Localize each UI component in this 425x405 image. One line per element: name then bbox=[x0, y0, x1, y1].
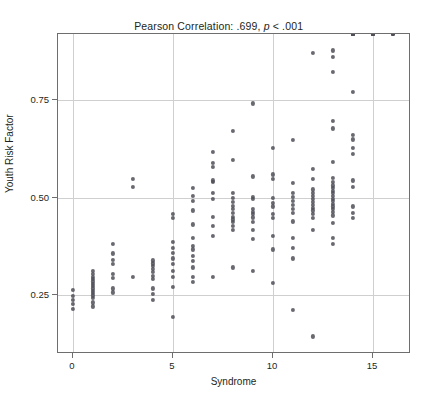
data-point bbox=[251, 228, 255, 232]
data-point bbox=[351, 146, 355, 150]
data-point bbox=[251, 237, 255, 241]
data-point bbox=[191, 254, 195, 258]
data-point bbox=[111, 276, 115, 280]
data-point bbox=[271, 247, 275, 251]
data-point bbox=[131, 185, 135, 189]
data-point bbox=[291, 246, 295, 250]
data-point bbox=[271, 281, 275, 285]
gridline-horizontal bbox=[58, 295, 409, 296]
data-point bbox=[171, 256, 175, 260]
data-point bbox=[231, 158, 235, 162]
chart-title-prefix: Pearson Correlation: .699, bbox=[134, 20, 264, 32]
data-point bbox=[211, 215, 215, 219]
data-point bbox=[331, 221, 335, 225]
data-point bbox=[271, 172, 275, 176]
data-point bbox=[211, 191, 215, 195]
data-point bbox=[231, 228, 235, 232]
data-point bbox=[251, 269, 255, 273]
data-point bbox=[211, 197, 215, 201]
data-point bbox=[91, 304, 95, 308]
data-point bbox=[351, 204, 355, 208]
data-point bbox=[311, 177, 315, 181]
data-point bbox=[171, 275, 175, 279]
data-point bbox=[351, 133, 355, 137]
data-point bbox=[71, 288, 75, 292]
data-point bbox=[351, 178, 355, 182]
data-point bbox=[191, 280, 195, 284]
data-point bbox=[271, 204, 275, 208]
data-point bbox=[391, 33, 395, 36]
data-point bbox=[351, 137, 355, 141]
data-point bbox=[131, 275, 135, 279]
data-point bbox=[111, 262, 115, 266]
data-point bbox=[271, 216, 275, 220]
data-point bbox=[211, 150, 215, 154]
y-tick-label: 0.25 bbox=[3, 289, 49, 300]
data-point bbox=[271, 177, 275, 181]
data-point bbox=[291, 256, 295, 260]
x-tick-label: 10 bbox=[257, 360, 287, 371]
data-point bbox=[331, 48, 335, 52]
data-point bbox=[271, 234, 275, 238]
data-point bbox=[111, 290, 115, 294]
data-point bbox=[111, 257, 115, 261]
data-point bbox=[211, 234, 215, 238]
data-point bbox=[311, 334, 315, 338]
data-point bbox=[111, 242, 115, 246]
data-point bbox=[191, 208, 195, 212]
data-point bbox=[311, 51, 315, 55]
data-point bbox=[171, 269, 175, 273]
data-point bbox=[251, 101, 255, 105]
data-point bbox=[171, 315, 175, 319]
gridline-horizontal bbox=[58, 100, 409, 101]
data-point bbox=[291, 181, 295, 185]
data-point bbox=[191, 186, 195, 190]
data-point bbox=[351, 152, 355, 156]
x-axis-label: Syndrome bbox=[57, 376, 410, 387]
data-point bbox=[271, 146, 275, 150]
data-point bbox=[231, 265, 235, 269]
data-point bbox=[171, 262, 175, 266]
data-point bbox=[131, 177, 135, 181]
data-point bbox=[351, 211, 355, 215]
data-point bbox=[331, 236, 335, 240]
data-point bbox=[171, 250, 175, 254]
data-point bbox=[311, 167, 315, 171]
data-point bbox=[331, 55, 335, 59]
data-point bbox=[191, 247, 195, 251]
data-point bbox=[191, 265, 195, 269]
data-point bbox=[211, 165, 215, 169]
data-point bbox=[171, 285, 175, 289]
data-point bbox=[171, 246, 175, 250]
x-tick-mark bbox=[272, 353, 273, 358]
data-point bbox=[111, 251, 115, 255]
x-tick-mark bbox=[72, 353, 73, 358]
chart-title-suffix: < .001 bbox=[270, 20, 303, 32]
scatter-plot-figure: Pearson Correlation: .699, p < .001 0.25… bbox=[0, 0, 425, 405]
data-point bbox=[251, 197, 255, 201]
x-tick-label: 0 bbox=[57, 360, 87, 371]
data-point bbox=[331, 119, 335, 123]
x-tick-mark bbox=[172, 353, 173, 358]
data-point bbox=[291, 138, 295, 142]
x-tick-label: 5 bbox=[157, 360, 187, 371]
data-point bbox=[291, 211, 295, 215]
data-point bbox=[311, 228, 315, 232]
data-point bbox=[331, 176, 335, 180]
data-point bbox=[151, 277, 155, 281]
data-point bbox=[331, 126, 335, 130]
data-point bbox=[251, 220, 255, 224]
data-point bbox=[71, 307, 75, 311]
y-axis-label: Youth Risk Factor bbox=[4, 114, 15, 193]
y-tick-label: 0.50 bbox=[3, 191, 49, 202]
data-point bbox=[331, 160, 335, 164]
x-tick-mark bbox=[372, 353, 373, 358]
data-point bbox=[211, 180, 215, 184]
data-point bbox=[251, 174, 255, 178]
data-point bbox=[231, 191, 235, 195]
data-point bbox=[191, 275, 195, 279]
data-point bbox=[191, 222, 195, 226]
data-point bbox=[191, 199, 195, 203]
data-point bbox=[351, 90, 355, 94]
plot-area bbox=[57, 33, 410, 353]
